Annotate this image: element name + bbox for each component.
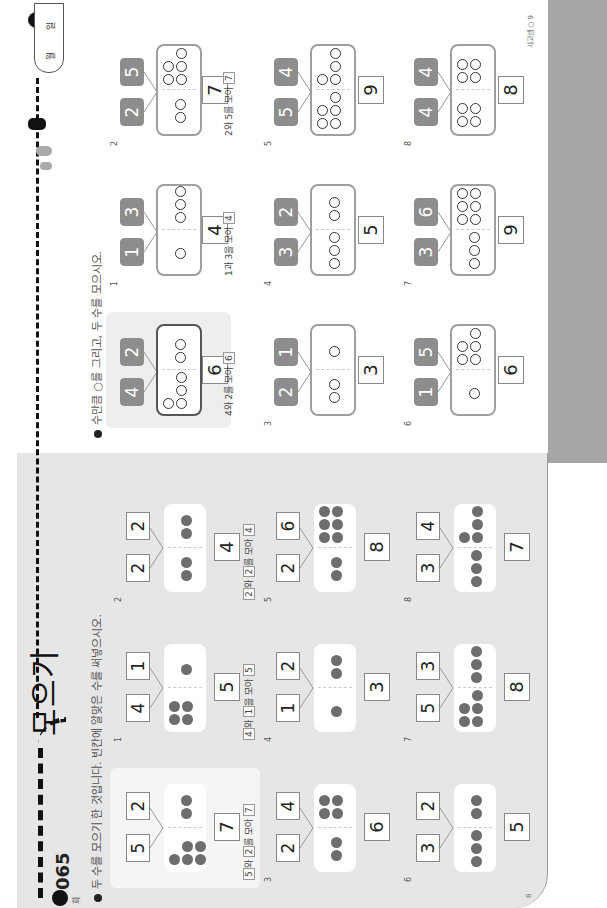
circle-tray[interactable] <box>310 44 356 136</box>
dot-tray <box>164 644 206 732</box>
bullet-icon <box>94 430 102 438</box>
left-example: 5 2 7 5와 2를 모아 7 <box>110 768 260 888</box>
circle-tray[interactable] <box>450 44 496 136</box>
right-problem-7: 7 3 6 9 <box>400 172 520 288</box>
bottom-edge-white <box>548 463 607 908</box>
circle-tray[interactable] <box>156 44 202 136</box>
dashed-track-main <box>36 78 39 718</box>
sum-box[interactable]: 6 <box>498 356 524 384</box>
right-problem-3: 3 2 1 3 <box>260 312 380 428</box>
workbook-spread: 회 065 모으기 두 수를 모으기 한 것입니다. 빈칸에 알맞은 수를 써넣… <box>0 0 607 908</box>
right-problem-6: 6 1 5 6 <box>400 312 520 428</box>
sentence: 2와 2를 모아 4 <box>242 524 255 600</box>
sum-box: 7 <box>214 813 240 841</box>
addend-box[interactable]: 5 <box>416 694 440 722</box>
left-problem-4: 4 1 2 3 <box>260 628 390 748</box>
left-problem-3: 3 2 4 6 <box>260 768 390 888</box>
sum-box[interactable]: 9 <box>358 76 384 104</box>
dot-tray <box>314 784 356 872</box>
figure-icon <box>40 162 52 170</box>
right-problem-4: 4 3 2 5 <box>260 172 380 288</box>
circle-tray[interactable] <box>450 324 496 416</box>
left-instruction: 두 수를 모으기 한 것입니다. 빈칸에 알맞은 수를 써넣으시오. <box>88 614 104 902</box>
addend-box: 2 <box>126 792 150 820</box>
sum-box[interactable]: 5 <box>504 813 530 841</box>
sum-box[interactable]: 3 <box>364 673 390 701</box>
addend-box[interactable]: 4 <box>276 792 300 820</box>
addend-box[interactable]: 2 <box>416 792 440 820</box>
bullet-icon <box>94 894 102 902</box>
dot-tray <box>314 644 356 732</box>
addend-box: 1 <box>126 652 150 680</box>
sum-box[interactable]: 9 <box>498 216 524 244</box>
addend-box[interactable]: 4 <box>416 512 440 540</box>
connector-lines <box>150 806 164 850</box>
left-problem-8: 8 3 4 7 <box>400 488 530 608</box>
sum-box[interactable]: 5 <box>358 216 384 244</box>
addend-box[interactable]: 3 <box>416 834 440 862</box>
circle-tray[interactable] <box>310 324 356 416</box>
addend-box[interactable]: 2 <box>276 834 300 862</box>
sentence: 2와 5를 모아 7 <box>222 72 235 136</box>
sum-box[interactable]: 8 <box>498 76 524 104</box>
left-page-number: 8 <box>525 894 533 898</box>
sentence: 4와 1을 모아 5 <box>242 664 255 740</box>
addend-box: 2 <box>126 512 150 540</box>
dot-tray <box>454 784 496 872</box>
addend-box[interactable]: 6 <box>276 512 300 540</box>
lesson-badge-label: 회 <box>70 897 81 904</box>
dot-tray <box>454 504 496 592</box>
lesson-badge-icon <box>52 890 68 906</box>
circle-tray <box>156 324 202 416</box>
sum-box[interactable]: 3 <box>358 356 384 384</box>
left-problem-1: 1 4 1 5 4와 1을 모아 5 <box>110 628 260 748</box>
left-problem-6: 6 3 2 5 <box>400 768 530 888</box>
lesson-number: 065 <box>52 852 73 890</box>
left-problem-7: 7 5 3 8 <box>400 628 530 748</box>
left-problem-5: 5 2 6 8 <box>260 488 390 608</box>
addend-box: 2 <box>126 554 150 582</box>
sum-box[interactable]: 8 <box>364 533 390 561</box>
dot-tray <box>454 644 496 732</box>
sum-box[interactable]: 8 <box>504 673 530 701</box>
dot-tray <box>164 504 206 592</box>
sum-box: 5 <box>214 673 240 701</box>
sum-box: 4 <box>214 533 240 561</box>
date-tab[interactable]: 월 일 <box>34 3 64 73</box>
dot-tray <box>314 504 356 592</box>
sum-box[interactable]: 7 <box>504 533 530 561</box>
top-margin <box>0 0 18 908</box>
robot-icon <box>28 118 46 130</box>
figure-icon <box>36 146 52 156</box>
circle-tray[interactable] <box>450 184 496 276</box>
right-problem-5: 5 5 4 9 <box>260 32 380 148</box>
right-instruction: 수만큼 ○를 그리고, 두 수를 모으시오. <box>88 251 104 438</box>
addend-box[interactable]: 2 <box>276 652 300 680</box>
circle-tray[interactable] <box>156 184 202 276</box>
left-problem-2: 2 2 2 4 2와 2를 모아 4 <box>110 488 260 608</box>
page-title: 모으기 <box>20 649 64 736</box>
right-page-footer: 사고셈 ○ 9 <box>525 15 535 48</box>
sentence: 1과 3을 모아 4 <box>222 212 235 276</box>
sentence: 4와 2를 모아 6 <box>222 352 235 416</box>
right-problem-8: 8 4 4 8 <box>400 32 520 148</box>
sum-box[interactable]: 6 <box>364 813 390 841</box>
addend-box: 4 <box>126 694 150 722</box>
dot-tray <box>164 784 206 872</box>
addend-box[interactable]: 2 <box>276 554 300 582</box>
addend-box[interactable]: 3 <box>416 652 440 680</box>
addend-box: 5 <box>126 834 150 862</box>
dashed-track-left <box>38 748 43 898</box>
addend-box[interactable]: 3 <box>416 554 440 582</box>
circle-tray[interactable] <box>310 184 356 276</box>
sentence: 5와 2를 모아 7 <box>242 804 255 880</box>
addend-box[interactable]: 1 <box>276 694 300 722</box>
